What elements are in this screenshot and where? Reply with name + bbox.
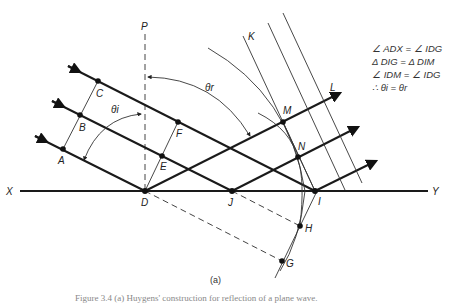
label-g: G — [286, 258, 294, 269]
reflected-wavefront-3 — [283, 13, 362, 183]
label-h: H — [305, 223, 313, 234]
label-a: A — [57, 155, 65, 166]
point-j — [229, 188, 235, 194]
incident-arrow-3 — [35, 136, 47, 142]
point-a — [60, 146, 66, 152]
label-j: J — [227, 197, 234, 208]
equation-1: ∠ ADX = ∠ IDG — [372, 43, 442, 54]
equation-2: Δ DIG = Δ DIM — [371, 56, 435, 67]
reflected-wavefront-2 — [268, 23, 345, 190]
incident-arrow-2 — [52, 101, 64, 107]
label-p: P — [141, 21, 148, 32]
point-c — [95, 78, 101, 84]
point-f — [175, 119, 181, 125]
label-l: L — [330, 82, 336, 93]
reflected-ray-from-d — [145, 93, 340, 191]
equation-4: ∴ θi = θr — [372, 82, 408, 93]
point-m — [280, 119, 286, 125]
label-e: E — [160, 161, 167, 172]
figure-caption: Figure 3.4 (a) Huygens' construction for… — [75, 293, 318, 303]
point-h — [297, 223, 303, 229]
label-theta-r: θr — [205, 82, 214, 93]
dashed-line-jh — [232, 191, 300, 226]
point-i — [312, 188, 318, 194]
incident-arrow-1 — [68, 66, 80, 72]
label-f: F — [176, 128, 183, 139]
label-b: B — [79, 122, 86, 133]
label-theta-i: θi — [111, 104, 119, 115]
point-e — [159, 153, 165, 159]
reflected-ray-from-i — [315, 161, 376, 191]
point-g — [279, 258, 285, 264]
label-i: I — [318, 196, 321, 207]
label-n: N — [298, 141, 306, 152]
point-b — [77, 112, 83, 118]
incident-ray-3 — [35, 136, 145, 191]
subfigure-label: (a) — [210, 275, 221, 285]
point-n — [295, 154, 301, 160]
label-y: Y — [432, 186, 440, 197]
angle-theta-r-arc — [148, 77, 250, 136]
label-c: C — [96, 88, 104, 99]
label-m: M — [283, 105, 292, 116]
tangent-line-gi — [275, 191, 317, 278]
wavelet-arc-from-d — [208, 48, 305, 271]
label-d: D — [141, 197, 148, 208]
point-d — [142, 188, 148, 194]
label-x: X — [5, 186, 13, 197]
label-k: K — [248, 31, 256, 42]
reflection-diagram: X Y P K L θi θr C B A F E — [0, 0, 453, 303]
dashed-line-dg — [145, 191, 282, 261]
equation-3: ∠ IDM = ∠ IDG — [372, 69, 440, 80]
